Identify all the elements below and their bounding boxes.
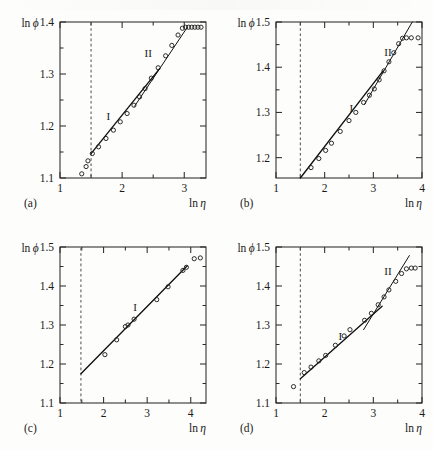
y-tick-label: 1.5 bbox=[256, 16, 271, 28]
y-tick-label: 1.1 bbox=[40, 397, 55, 409]
x-tick-label: 1 bbox=[57, 407, 63, 419]
x-tick-label: 3 bbox=[370, 407, 376, 419]
y-tick-label: 1.2 bbox=[40, 120, 55, 132]
data-point bbox=[118, 120, 122, 124]
data-point bbox=[155, 298, 159, 302]
data-point bbox=[198, 256, 202, 260]
x-tick-label: 3 bbox=[144, 407, 150, 419]
plot-frame bbox=[60, 247, 206, 403]
y-axis-label: ln ϕ bbox=[237, 17, 254, 30]
data-point bbox=[103, 353, 107, 357]
plot-frame bbox=[60, 22, 206, 178]
data-point bbox=[86, 159, 90, 163]
plot-c: 12341.11.21.31.41.5ln ϕln η(c)I bbox=[0, 233, 217, 450]
data-point bbox=[156, 66, 160, 70]
data-point bbox=[291, 385, 295, 389]
data-point bbox=[176, 33, 180, 37]
data-point bbox=[164, 54, 168, 58]
fit-region-label: I bbox=[107, 110, 111, 122]
data-point bbox=[309, 166, 313, 170]
fit-line-ii bbox=[365, 22, 413, 104]
plot-a: 1231.11.21.31.4ln ϕln η(a)III bbox=[0, 8, 217, 225]
y-tick-label: 1.4 bbox=[40, 280, 55, 292]
panel-label: (b) bbox=[240, 197, 254, 210]
x-axis-label: ln η bbox=[189, 197, 206, 210]
x-tick-label: 4 bbox=[188, 407, 194, 419]
panel-c: 12341.11.21.31.41.5ln ϕln η(c)I bbox=[0, 233, 217, 450]
data-point bbox=[317, 156, 321, 160]
data-point bbox=[84, 164, 88, 168]
panel-d: 12341.11.21.31.41.5ln ϕln η(d)III bbox=[216, 233, 433, 450]
x-tick-label: 1 bbox=[273, 407, 279, 419]
x-tick-label: 2 bbox=[322, 407, 328, 419]
y-axis-label: ln ϕ bbox=[21, 242, 38, 255]
plot-d: 12341.11.21.31.41.5ln ϕln η(d)III bbox=[216, 233, 433, 450]
data-point bbox=[342, 334, 346, 338]
y-tick-label: 1.5 bbox=[40, 241, 55, 253]
panel-a: 1231.11.21.31.4ln ϕln η(a)III bbox=[0, 8, 217, 225]
data-point bbox=[416, 36, 420, 40]
y-tick-label: 1.3 bbox=[40, 319, 55, 331]
y-tick-label: 1.2 bbox=[40, 358, 55, 370]
data-point bbox=[80, 172, 84, 176]
fit-region-label: II bbox=[384, 46, 392, 58]
y-tick-label: 1.2 bbox=[256, 358, 271, 370]
fit-line-i bbox=[91, 69, 159, 154]
x-tick-label: 2 bbox=[322, 182, 328, 194]
data-point bbox=[409, 36, 413, 40]
data-point bbox=[192, 257, 196, 261]
x-tick-label: 2 bbox=[101, 407, 107, 419]
data-point bbox=[369, 311, 373, 315]
fit-region-label: I bbox=[350, 102, 354, 114]
data-point bbox=[347, 118, 351, 122]
y-tick-label: 1.3 bbox=[256, 106, 271, 118]
x-tick-label: 4 bbox=[419, 182, 425, 194]
x-tick-label: 1 bbox=[273, 182, 279, 194]
y-tick-label: 1.5 bbox=[256, 241, 271, 253]
y-tick-label: 1.1 bbox=[40, 172, 55, 184]
fit-region-label: II bbox=[145, 47, 153, 59]
y-tick-label: 1.3 bbox=[256, 319, 271, 331]
data-point bbox=[125, 111, 129, 115]
y-tick-label: 1.2 bbox=[256, 152, 271, 164]
data-point bbox=[404, 267, 408, 271]
x-tick-label: 3 bbox=[181, 182, 187, 194]
fit-region-label: I bbox=[133, 301, 137, 313]
panel-label: (c) bbox=[24, 422, 37, 435]
data-point bbox=[338, 129, 342, 133]
x-axis-label: ln η bbox=[189, 422, 206, 435]
panel-label: (a) bbox=[24, 197, 37, 210]
y-axis-label: ln ϕ bbox=[237, 242, 254, 255]
y-tick-label: 1.4 bbox=[40, 16, 55, 28]
y-tick-label: 1.4 bbox=[256, 61, 271, 73]
data-point bbox=[394, 279, 398, 283]
y-tick-label: 1.1 bbox=[256, 397, 271, 409]
data-point bbox=[324, 148, 328, 152]
fit-line-i bbox=[300, 71, 383, 178]
x-tick-label: 4 bbox=[419, 407, 425, 419]
x-axis-label: ln η bbox=[405, 197, 422, 210]
x-tick-label: 1 bbox=[57, 182, 63, 194]
data-point bbox=[170, 43, 174, 47]
fit-line-i bbox=[81, 266, 187, 374]
plot-b: 12341.21.31.41.5ln ϕln η(b)III bbox=[216, 8, 433, 225]
y-tick-label: 1.4 bbox=[256, 280, 271, 292]
fit-region-label: II bbox=[384, 265, 392, 277]
data-point bbox=[348, 328, 352, 332]
figure-panel-grid: 1231.11.21.31.4ln ϕln η(a)III 12341.21.3… bbox=[0, 0, 433, 450]
panel-label: (d) bbox=[240, 422, 254, 435]
x-tick-label: 2 bbox=[119, 182, 125, 194]
data-point bbox=[111, 128, 115, 132]
panel-b: 12341.21.31.41.5ln ϕln η(b)III bbox=[216, 8, 433, 225]
y-tick-label: 1.3 bbox=[40, 68, 55, 80]
y-axis-label: ln ϕ bbox=[21, 17, 38, 30]
x-tick-label: 3 bbox=[370, 182, 376, 194]
fit-region-label: I bbox=[338, 330, 342, 342]
data-point bbox=[302, 370, 306, 374]
data-point bbox=[333, 343, 337, 347]
data-point bbox=[399, 271, 403, 275]
data-point bbox=[354, 110, 358, 114]
x-axis-label: ln η bbox=[405, 422, 422, 435]
fit-line-ii bbox=[135, 27, 188, 106]
data-point bbox=[104, 136, 108, 140]
